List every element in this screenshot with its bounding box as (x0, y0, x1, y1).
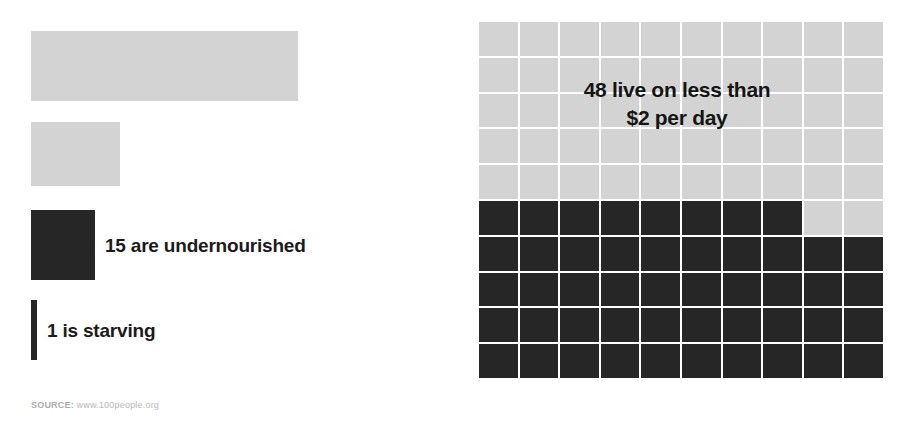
waffle-cell (804, 237, 843, 271)
waffle-cell (763, 94, 802, 128)
bar-row: 15 are undernourished (31, 210, 306, 280)
waffle-cell (560, 58, 599, 92)
waffle-cell (804, 344, 843, 378)
waffle-cell (844, 165, 883, 199)
waffle-cell (682, 94, 721, 128)
waffle-cell (641, 201, 680, 235)
waffle-cell (479, 129, 518, 163)
waffle-cell (723, 58, 762, 92)
waffle-cell (479, 22, 518, 56)
waffle-cell (560, 273, 599, 307)
waffle-cell (641, 129, 680, 163)
waffle-cell (641, 308, 680, 342)
waffle-cell (682, 58, 721, 92)
waffle-cell (804, 273, 843, 307)
waffle-cell (520, 165, 559, 199)
waffle-cell (682, 344, 721, 378)
waffle-cell (520, 129, 559, 163)
bar-rect-0 (31, 31, 298, 101)
waffle-cell (641, 237, 680, 271)
waffle-cell (560, 344, 599, 378)
waffle-cell (601, 94, 640, 128)
waffle-cell (844, 237, 883, 271)
waffle-cell (844, 273, 883, 307)
waffle-cell (560, 129, 599, 163)
waffle-cell (641, 22, 680, 56)
waffle-cell (723, 129, 762, 163)
waffle-cell (479, 201, 518, 235)
waffle-cell (763, 165, 802, 199)
waffle-cell (723, 344, 762, 378)
waffle-cell (723, 308, 762, 342)
waffle-cell (560, 308, 599, 342)
waffle-cell (763, 308, 802, 342)
waffle-cell (560, 22, 599, 56)
waffle-cell (723, 94, 762, 128)
waffle-cell (520, 344, 559, 378)
waffle-cell (520, 237, 559, 271)
waffle-cell (520, 273, 559, 307)
waffle-cell (641, 165, 680, 199)
waffle-cell (682, 237, 721, 271)
waffle-cell (520, 58, 559, 92)
waffle-cell (723, 165, 762, 199)
waffle-cell (763, 129, 802, 163)
waffle-cell (723, 237, 762, 271)
waffle-cell (479, 94, 518, 128)
waffle-cell (479, 344, 518, 378)
source-credit-key: SOURCE: (31, 400, 74, 410)
waffle-cell (844, 308, 883, 342)
bar-label-3: 1 is starving (47, 321, 155, 340)
bar-chart-panel: 15 are undernourished 1 is starving SOUR… (0, 0, 451, 432)
waffle-cell (601, 201, 640, 235)
waffle-cell (601, 308, 640, 342)
waffle-cell (479, 237, 518, 271)
waffle-cell (682, 201, 721, 235)
waffle-cell (641, 273, 680, 307)
waffle-cell (844, 58, 883, 92)
waffle-cell (804, 165, 843, 199)
waffle-cell (844, 201, 883, 235)
waffle-cell (601, 58, 640, 92)
waffle-chart-panel: 48 live on less than $2 per day DESIGN: … (451, 0, 903, 432)
waffle-cell (723, 273, 762, 307)
waffle-cell (520, 94, 559, 128)
waffle-cell (641, 344, 680, 378)
waffle-grid (479, 22, 883, 378)
waffle-cell (804, 94, 843, 128)
waffle-cell (520, 201, 559, 235)
waffle-cell (601, 165, 640, 199)
waffle-cell (763, 237, 802, 271)
waffle-cell (804, 22, 843, 56)
source-credit: SOURCE: www.100people.org (31, 400, 159, 410)
source-credit-value: www.100people.org (74, 400, 159, 410)
waffle-cell (804, 58, 843, 92)
waffle-cell (560, 165, 599, 199)
waffle-cell (641, 58, 680, 92)
bar-rect-3 (31, 300, 37, 360)
waffle-cell (763, 22, 802, 56)
waffle-cell (641, 94, 680, 128)
waffle-cell (844, 22, 883, 56)
waffle-cell (560, 201, 599, 235)
waffle-cell (682, 129, 721, 163)
waffle-cell (601, 273, 640, 307)
waffle-cell (723, 22, 762, 56)
waffle-cell (763, 273, 802, 307)
waffle-cell (479, 308, 518, 342)
bar-rect-2 (31, 210, 95, 280)
waffle-cell (763, 58, 802, 92)
bar-row: 1 is starving (31, 300, 155, 360)
infographic-canvas: 15 are undernourished 1 is starving SOUR… (0, 0, 903, 432)
waffle-cell (723, 201, 762, 235)
bar-rect-1 (31, 122, 120, 186)
bar-row (31, 31, 308, 101)
waffle-cell (560, 94, 599, 128)
waffle-cell (479, 273, 518, 307)
waffle-cell (844, 129, 883, 163)
waffle-cell (763, 201, 802, 235)
waffle-cell (601, 22, 640, 56)
waffle-cell (601, 344, 640, 378)
waffle-cell (804, 308, 843, 342)
waffle-cell (844, 94, 883, 128)
